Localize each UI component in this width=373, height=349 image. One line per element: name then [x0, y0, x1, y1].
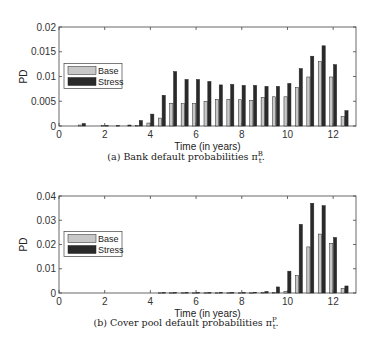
- bar-stress: [299, 224, 302, 293]
- bar-base: [193, 104, 196, 126]
- bar-base: [341, 289, 344, 293]
- bar-stress: [242, 85, 245, 126]
- bar-base: [295, 276, 298, 293]
- bar-base: [295, 87, 298, 126]
- bar-base: [158, 118, 161, 126]
- x-tick-label: 12: [328, 296, 340, 307]
- y-tick-label: 0.03: [37, 215, 57, 226]
- bar-stress: [105, 126, 108, 127]
- bar-stress: [174, 293, 177, 294]
- x-tick-label: 10: [282, 296, 294, 307]
- bar-stress: [162, 293, 165, 294]
- bar-base: [227, 99, 230, 126]
- legend: BaseStress: [64, 64, 124, 89]
- x-tick-label: 2: [102, 129, 108, 140]
- figure: 02468101200.0050.010.0150.02Time (in yea…: [0, 0, 373, 349]
- bar-stress: [128, 125, 131, 126]
- legend-swatch-base: [68, 67, 96, 75]
- bar-stress: [299, 69, 302, 126]
- bar-stress: [208, 293, 211, 294]
- bar-base: [307, 77, 310, 126]
- bar-base: [284, 292, 287, 293]
- y-tick-label: 0.005: [31, 96, 56, 107]
- bar-stress: [288, 271, 291, 293]
- legend-swatch-base: [68, 235, 96, 243]
- bar-base: [204, 101, 207, 126]
- bar-stress: [162, 95, 165, 126]
- bar-base: [238, 293, 241, 294]
- y-tick-label: 0: [50, 288, 56, 299]
- bar-stress: [276, 86, 279, 126]
- bar-base: [170, 293, 173, 294]
- bar-stress: [196, 293, 199, 294]
- bar-stress: [265, 86, 268, 126]
- bar-base: [284, 97, 287, 126]
- bar-stress: [139, 121, 142, 126]
- bar-base: [330, 77, 333, 126]
- x-tick-label: 6: [193, 129, 199, 140]
- chart-bank-pd: 02468101200.0050.010.0150.02Time (in yea…: [18, 22, 356, 166]
- bar-stress: [276, 287, 279, 293]
- x-tick-label: 8: [239, 296, 245, 307]
- legend-swatch-stress: [68, 246, 96, 254]
- x-tick-label: 0: [56, 296, 62, 307]
- bar-base: [330, 243, 333, 293]
- bar-stress: [322, 46, 325, 126]
- bar-stress: [196, 79, 199, 126]
- bar-stress: [174, 72, 177, 126]
- bar-stress: [253, 292, 256, 293]
- bar-base: [238, 100, 241, 126]
- bar-base: [318, 62, 321, 126]
- legend: BaseStress: [64, 232, 124, 257]
- chart-cover-pool-pd: 02468101200.010.020.030.04Time (in years…: [18, 191, 356, 332]
- y-axis-label: PD: [18, 70, 29, 84]
- x-tick-label: 8: [239, 129, 245, 140]
- bar-stress: [185, 79, 188, 126]
- y-tick-label: 0.01: [37, 263, 57, 274]
- bar-stress: [219, 85, 222, 126]
- legend-label: Stress: [98, 245, 124, 255]
- bar-base: [147, 123, 150, 126]
- bar-stress: [345, 111, 348, 126]
- legend-label: Base: [98, 234, 119, 244]
- x-tick-label: 0: [56, 129, 62, 140]
- bar-base: [204, 293, 207, 294]
- bar-base: [215, 293, 218, 294]
- x-tick-label: 6: [193, 296, 199, 307]
- bar-stress: [253, 85, 256, 126]
- figure-caption: (b) Cover pool default probabilities πPt…: [94, 316, 279, 331]
- y-axis-label: PD: [18, 238, 29, 252]
- bar-base: [250, 293, 253, 294]
- bar-stress: [116, 126, 119, 127]
- bar-base: [135, 126, 138, 127]
- bar-base: [181, 104, 184, 126]
- y-tick-label: 0.02: [37, 22, 57, 33]
- bar-base: [273, 97, 276, 126]
- bar-stress: [322, 206, 325, 293]
- legend-swatch-stress: [68, 78, 96, 86]
- y-tick-label: 0.015: [31, 46, 56, 57]
- bar-stress: [208, 81, 211, 126]
- bar-stress: [242, 293, 245, 294]
- bar-stress: [231, 293, 234, 294]
- bar-base: [273, 293, 276, 294]
- bar-base: [215, 99, 218, 126]
- bar-stress: [311, 56, 314, 126]
- x-tick-label: 2: [102, 296, 108, 307]
- bar-base: [78, 125, 81, 126]
- bar-stress: [288, 83, 291, 126]
- bar-base: [181, 293, 184, 294]
- legend-label: Base: [98, 66, 119, 76]
- bar-base: [227, 293, 230, 294]
- x-tick-label: 4: [148, 129, 154, 140]
- bar-stress: [82, 124, 85, 126]
- bar-base: [261, 97, 264, 126]
- bar-base: [341, 117, 344, 126]
- bar-stress: [311, 203, 314, 293]
- bar-stress: [333, 237, 336, 293]
- bar-stress: [231, 84, 234, 126]
- x-tick-label: 4: [148, 296, 154, 307]
- figure-caption: (a) Bank default probabilities πBt.: [107, 150, 264, 165]
- bar-stress: [345, 286, 348, 293]
- y-tick-label: 0.04: [37, 191, 57, 202]
